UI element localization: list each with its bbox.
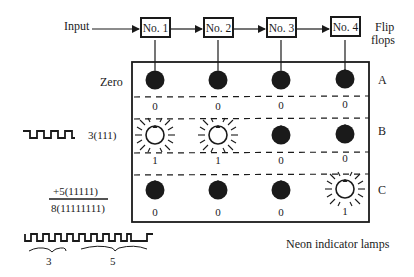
row-a-side-label: Zero [100, 76, 123, 88]
row-c-value-1: 0 [147, 207, 163, 218]
row-b-value-4: 0 [337, 153, 353, 164]
pulse-count-3: 3 [46, 256, 52, 267]
flip-flop-1: No. 1 [140, 17, 171, 38]
flip-flop-2: No. 2 [203, 17, 234, 38]
lamp-off-icon [209, 180, 228, 200]
flip-flop-4: No. 4 [330, 16, 361, 37]
flipflop-to-lamp-lines [155, 40, 345, 70]
lamp-on-icon [198, 118, 238, 152]
lamp-off-icon [272, 125, 291, 145]
row-a-value-2: 0 [210, 101, 226, 112]
row-b-value-3: 0 [273, 155, 289, 166]
addend-label: +5(11111) [53, 186, 98, 197]
diagram-canvas [0, 0, 414, 277]
row-b-lamps [135, 118, 355, 152]
row-b-side-label: 3(111) [88, 130, 117, 141]
lamp-off-icon [209, 70, 228, 90]
lamp-on-icon [135, 118, 175, 152]
row-b-value-2: 1 [210, 155, 226, 166]
row-c-lamps [146, 172, 366, 206]
brace-5 [81, 246, 147, 251]
row-a-value-1: 0 [147, 101, 163, 112]
lamp-off-icon [272, 180, 291, 200]
row-c-name: C [378, 184, 386, 196]
lamp-off-icon [272, 70, 291, 90]
row-a-lamps [146, 69, 355, 90]
row-a-name: A [378, 74, 387, 86]
row-a-value-4: 0 [337, 99, 353, 110]
pulse-count-5: 5 [110, 256, 116, 267]
flip-flops-label-1: Flip [375, 21, 394, 33]
input-label: Input [64, 20, 89, 32]
row-c-value-4: 1 [337, 206, 353, 217]
row-a-value-3: 0 [273, 100, 289, 111]
pulse-train-3-icon [23, 131, 75, 138]
flip-flop-3: No. 3 [266, 17, 297, 38]
caption: Neon indicator lamps [286, 238, 389, 250]
pulse-train-8-icon [25, 234, 153, 241]
lamp-on-icon [325, 172, 365, 206]
lamp-off-icon [146, 70, 165, 90]
row-c-value-2: 0 [210, 207, 226, 218]
row-b-value-1: 1 [147, 155, 163, 166]
brace-3 [29, 248, 66, 252]
lamp-off-icon [146, 180, 165, 200]
row-c-value-3: 0 [273, 207, 289, 218]
lamp-panel [132, 62, 369, 222]
flip-flops-label-2: flops [371, 34, 395, 46]
row-b-name: B [378, 125, 386, 137]
sum-label: 8(11111111) [51, 203, 105, 214]
lamp-off-icon [336, 69, 355, 89]
lamp-off-icon [336, 124, 355, 144]
